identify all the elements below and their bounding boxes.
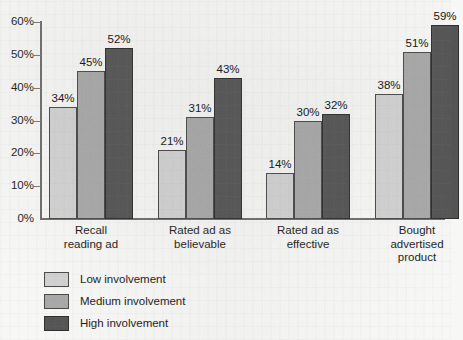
- bar-value-label: 34%: [43, 92, 83, 104]
- bar-value-label: 38%: [369, 79, 409, 91]
- chart-legend: Low involvementMedium involvementHigh in…: [44, 268, 185, 334]
- x-axis-category-label-line: Rated ad as: [256, 224, 360, 238]
- bar-value-label: 51%: [397, 37, 437, 49]
- x-axis-category-label-line: product: [365, 251, 463, 265]
- bar-value-label: 21%: [152, 135, 192, 147]
- legend-item-label: High involvement: [80, 317, 168, 329]
- y-axis-tick: [34, 88, 41, 89]
- bar: [431, 25, 459, 219]
- bar-value-label: 45%: [71, 56, 111, 68]
- bar: [375, 94, 403, 219]
- y-axis-tick-label: 50%: [0, 49, 34, 60]
- bar-value-label: 31%: [180, 102, 220, 114]
- x-axis-category-label: Boughtadvertisedproduct: [365, 224, 463, 265]
- bar: [266, 173, 294, 219]
- bar: [49, 107, 77, 219]
- legend-swatch-icon: [44, 272, 69, 287]
- y-axis-tick-label: 0%: [0, 213, 34, 224]
- y-axis-tick-label: 60%: [0, 16, 34, 27]
- x-axis-category-label-line: Rated ad as: [148, 224, 252, 238]
- x-axis-category-label-line: advertised: [365, 238, 463, 252]
- bar: [186, 117, 214, 219]
- y-axis-tick-label: 40%: [0, 82, 34, 93]
- y-axis-tick-label: 20%: [0, 147, 34, 158]
- legend-item-label: Medium involvement: [80, 295, 185, 307]
- legend-swatch-icon: [44, 294, 69, 309]
- y-axis-tick: [34, 186, 41, 187]
- bar: [322, 114, 350, 219]
- bar-value-label: 43%: [208, 63, 248, 75]
- x-axis-category-label-line: Recall: [39, 224, 143, 238]
- bar: [105, 48, 133, 219]
- y-axis-tick: [34, 55, 41, 56]
- legend-swatch-icon: [44, 316, 69, 331]
- y-axis-tick-label: 10%: [0, 180, 34, 191]
- x-axis-category-label: Rated ad aseffective: [256, 224, 360, 251]
- legend-item: High involvement: [44, 312, 185, 334]
- x-axis-category-label-line: Bought: [365, 224, 463, 238]
- y-axis-tick: [34, 22, 41, 23]
- x-axis-category-label-line: reading ad: [39, 238, 143, 252]
- bar: [214, 78, 242, 219]
- bar-value-label: 59%: [425, 10, 463, 22]
- bar: [403, 52, 431, 219]
- bar-value-label: 52%: [99, 33, 139, 45]
- bar: [158, 150, 186, 219]
- y-axis-tick: [34, 121, 41, 122]
- x-axis-category-label: Recallreading ad: [39, 224, 143, 251]
- y-axis-tick-label: 30%: [0, 115, 34, 126]
- legend-item: Low involvement: [44, 268, 185, 290]
- y-axis-tick: [34, 153, 41, 154]
- x-axis-category-label: Rated ad asbelievable: [148, 224, 252, 251]
- x-axis-category-label-line: believable: [148, 238, 252, 252]
- bar-value-label: 14%: [260, 158, 300, 170]
- x-axis-category-label-line: effective: [256, 238, 360, 252]
- legend-item: Medium involvement: [44, 290, 185, 312]
- bar-value-label: 32%: [316, 99, 356, 111]
- legend-item-label: Low involvement: [80, 273, 166, 285]
